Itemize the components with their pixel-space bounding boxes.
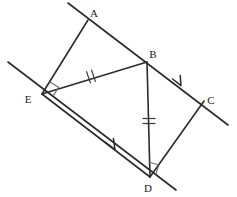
segment-e-d: [42, 94, 150, 177]
extended-lines-group: [8, 3, 228, 190]
vertex-label-c: C: [207, 94, 214, 106]
congruence-ticks-eb: [86, 70, 95, 84]
geometry-diagram: A B C D E: [0, 0, 237, 197]
vertex-labels-group: A B C D E: [25, 7, 215, 194]
geometry-figure-container: A B C D E: [0, 0, 237, 197]
transversal-line-ed: [8, 62, 176, 190]
vertex-label-b: B: [149, 48, 156, 60]
segment-d-c: [150, 101, 204, 177]
vertex-label-a: A: [90, 7, 98, 19]
segment-b-d: [147, 62, 150, 177]
segments-group: [42, 20, 204, 177]
right-angle-mark-e: [50, 82, 59, 96]
vertex-label-e: E: [25, 93, 32, 105]
vertex-label-d: D: [144, 182, 152, 194]
